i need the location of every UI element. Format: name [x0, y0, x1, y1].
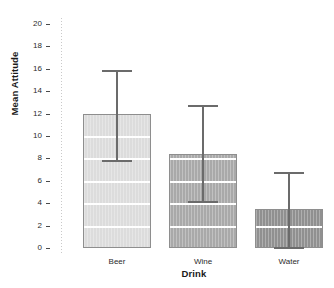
axis-guide-dot — [61, 165, 62, 166]
error-bar-stem-water — [288, 172, 290, 247]
x-axis-tick-label-water: Water — [249, 257, 329, 266]
y-axis-tick-mark — [46, 248, 50, 249]
axis-guide-dot — [61, 126, 62, 127]
axis-guide-dot — [61, 219, 62, 220]
axis-guide-dot — [61, 225, 62, 226]
y-axis-tick-mark — [46, 158, 50, 159]
axis-guide-dot — [61, 69, 62, 70]
axis-guide-dot — [61, 129, 62, 130]
y-axis-tick-label: 8 — [20, 154, 42, 162]
error-bar-cap-upper-water — [274, 172, 304, 174]
axis-guide-dot — [61, 144, 62, 145]
axis-guide-dot — [61, 243, 62, 244]
axis-guide-dot — [61, 21, 62, 22]
y-axis-tick-mark — [46, 181, 50, 182]
axis-guide-dot — [61, 108, 62, 109]
y-axis-tick-label: 10 — [20, 132, 42, 140]
axis-guide-dot — [61, 141, 62, 142]
y-axis-tick-label: 16 — [20, 65, 42, 73]
y-axis-tick-mark — [46, 114, 50, 115]
axis-guide-dot — [61, 120, 62, 121]
axis-guide-dot — [61, 204, 62, 205]
axis-guide-dot — [61, 30, 62, 31]
axis-guide-dot — [61, 156, 62, 157]
axis-guide-dot — [61, 246, 62, 247]
y-axis-title: Mean Attitude — [9, 24, 20, 144]
y-axis-tick-label: 0 — [20, 244, 42, 252]
axis-guide-dot — [61, 105, 62, 106]
axis-guide-dot — [61, 81, 62, 82]
axis-guide-dot — [61, 147, 62, 148]
axis-guide-dot — [61, 117, 62, 118]
axis-guide-dot — [61, 45, 62, 46]
axis-guide-dot — [61, 222, 62, 223]
axis-guide-dot — [61, 159, 62, 160]
axis-guide-dot — [61, 237, 62, 238]
axis-guide-dot — [61, 213, 62, 214]
axis-guide-dot — [61, 132, 62, 133]
error-bar-cap-lower-water — [274, 247, 304, 249]
axis-guide-dot — [61, 84, 62, 85]
axis-guide-dot — [61, 186, 62, 187]
axis-guide-dot — [61, 210, 62, 211]
axis-guide-dot — [61, 114, 62, 115]
y-axis-tick-label: 2 — [20, 222, 42, 230]
axis-guide-dot — [61, 99, 62, 100]
axis-guide-dot — [61, 57, 62, 58]
y-axis-tick-mark — [46, 203, 50, 204]
axis-guide-dot — [61, 234, 62, 235]
y-axis-tick-label: 14 — [20, 87, 42, 95]
axis-guide-dot — [61, 18, 62, 19]
error-bar-cap-lower-beer — [102, 160, 132, 162]
axis-guide-dot — [61, 75, 62, 76]
axis-guide-dot — [61, 216, 62, 217]
axis-guide-dot — [61, 150, 62, 151]
error-bar-cap-upper-beer — [102, 70, 132, 72]
axis-guide-dot — [61, 42, 62, 43]
axis-guide-dot — [61, 189, 62, 190]
error-bar-stem-beer — [116, 70, 118, 160]
axis-guide-dot — [61, 201, 62, 202]
axis-guide-dot — [61, 153, 62, 154]
y-axis-tick-mark — [46, 24, 50, 25]
axis-guide-dot — [61, 51, 62, 52]
axis-guide-dot — [61, 36, 62, 37]
axis-guide-dot — [61, 135, 62, 136]
axis-guide-dot — [61, 54, 62, 55]
axis-guide-dot — [61, 228, 62, 229]
axis-guide-dot — [61, 162, 62, 163]
axis-guide-dot — [61, 102, 62, 103]
axis-guide-dot — [61, 111, 62, 112]
gridline — [170, 226, 236, 228]
axis-guide-dot — [61, 60, 62, 61]
gridline — [170, 203, 236, 205]
axis-guide-dot — [61, 180, 62, 181]
gridline — [84, 181, 150, 183]
y-axis-tick-mark — [46, 226, 50, 227]
axis-guide-dot — [61, 231, 62, 232]
axis-guide-dot — [61, 240, 62, 241]
axis-guide-dot — [61, 63, 62, 64]
axis-guide-dot — [61, 123, 62, 124]
y-axis-tick-mark — [46, 91, 50, 92]
y-axis-tick-mark — [46, 46, 50, 47]
axis-guide-dot — [61, 195, 62, 196]
bar-chart: Mean Attitude 02468101214161820 BeerWine… — [0, 0, 334, 288]
axis-guide-dot — [61, 90, 62, 91]
error-bar-stem-wine — [202, 105, 204, 201]
axis-guide-dot — [61, 78, 62, 79]
axis-guide-dot — [61, 207, 62, 208]
axis-guide-dot — [61, 33, 62, 34]
error-bar-cap-lower-wine — [188, 201, 218, 203]
axis-guide-dot — [61, 249, 62, 250]
x-axis-tick-label-beer: Beer — [77, 257, 157, 266]
axis-guide-dot — [61, 87, 62, 88]
axis-guide-dot — [61, 252, 62, 253]
axis-guide-dot — [61, 177, 62, 178]
y-axis-tick-mark — [46, 136, 50, 137]
axis-guide-dot — [61, 183, 62, 184]
axis-guide-dot — [61, 39, 62, 40]
axis-guide-dot — [61, 174, 62, 175]
y-axis-tick-label: 12 — [20, 110, 42, 118]
y-axis-tick-label: 6 — [20, 177, 42, 185]
